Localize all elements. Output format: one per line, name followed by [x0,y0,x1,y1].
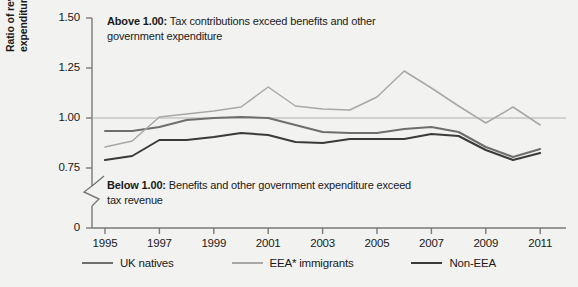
annotation-leader-layer [92,176,104,186]
x-tick-label: 2011 [520,237,560,249]
y-tick-label: 0 [40,221,80,233]
annotation-above-one-text-1: Tax contributions exceed benefits and ot… [170,15,376,27]
x-tick-label: 2003 [303,237,343,249]
x-tick-label: 1995 [85,237,125,249]
data-series-layer [105,71,540,160]
annotation-below-one-text-2: tax revenue [107,194,163,206]
chart-legend: UK nativesEEA* immigrantsNon-EEA [0,257,578,269]
series-line-non-eea [105,133,540,160]
annotation-below-one-label: Below 1.00: [107,179,166,191]
annotation-below-one-text-1: Benefits and other government expenditur… [169,179,411,191]
legend-item[interactable]: Non-EEA [411,257,496,269]
legend-line-swatch-icon [232,262,263,264]
y-tick-label: 1.50 [40,11,80,23]
annotation-leader-line [92,176,104,186]
x-tick-label: 2001 [248,237,288,249]
x-tick-label: 2005 [357,237,397,249]
legend-line-swatch-icon [82,262,113,264]
legend-label: UK natives [120,257,174,269]
y-axis-break-mark [84,186,99,206]
legend-item[interactable]: EEA* immigrants [232,257,354,269]
x-tick-label: 2007 [411,237,451,249]
y-tick-label: 1.00 [40,111,80,123]
legend-label: Non-EEA [449,257,496,269]
chart-figure: Ratio of revenue to expenditure 1.501.25… [0,0,578,287]
annotation-below-one: Below 1.00: Benefits and other governmen… [107,178,447,207]
x-tick-label: 1999 [194,237,234,249]
series-line-eea-immigrants [105,71,540,147]
y-tick-label: 0.75 [40,161,80,173]
annotation-above-one: Above 1.00: Tax contributions exceed ben… [107,14,437,43]
legend-label: EEA* immigrants [270,257,354,269]
legend-line-swatch-icon [411,262,442,264]
series-line-uk-natives [105,117,540,157]
y-tick-label: 1.25 [40,61,80,73]
legend-item[interactable]: UK natives [82,257,174,269]
annotation-above-one-text-2: government expenditure [107,30,222,42]
annotation-above-one-label: Above 1.00: [107,15,167,27]
x-tick-label: 2009 [466,237,506,249]
x-tick-label: 1997 [139,237,179,249]
